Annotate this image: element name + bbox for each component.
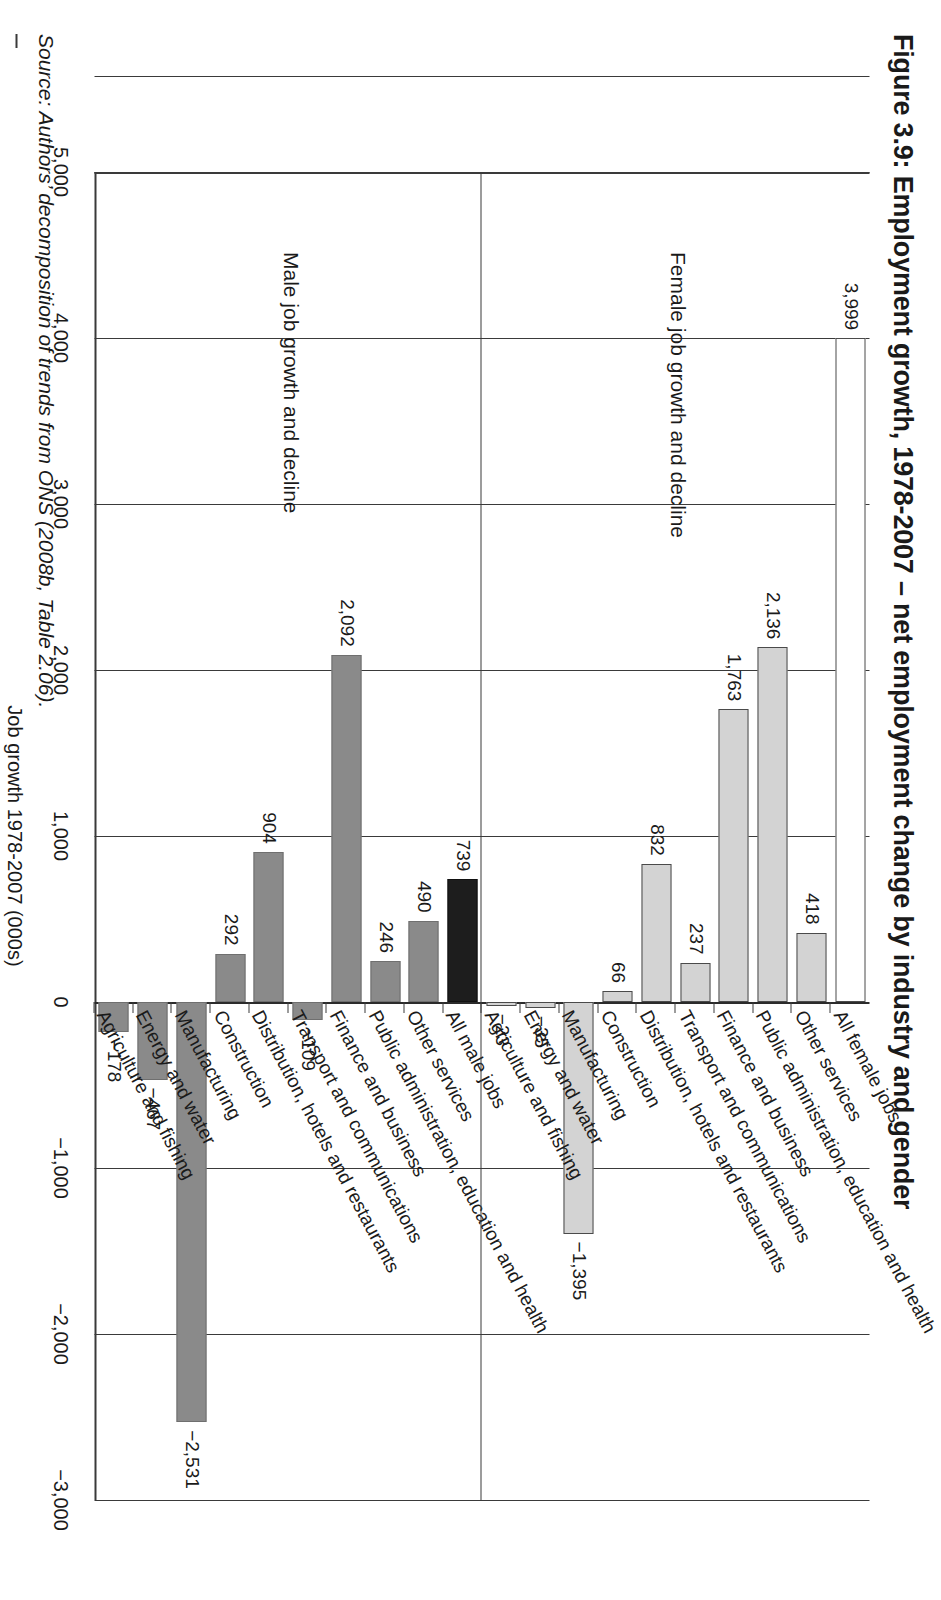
bar-value-label: 292 [219, 914, 241, 946]
bar-value-label: 418 [800, 893, 822, 925]
source-note: Source: Authors’ decomposition of trends… [33, 34, 57, 1534]
bar-male [370, 961, 400, 1002]
bar-male [215, 954, 245, 1002]
category-tick [829, 1002, 830, 1013]
category-tick [287, 1002, 288, 1013]
panel-caption-female: Female job growth and decline [665, 252, 689, 538]
category-tick [93, 1002, 94, 1013]
bar-value-label: 66 [606, 962, 628, 983]
category-tick [558, 1002, 559, 1013]
plot-outer-border [94, 76, 869, 77]
category-tick [636, 1002, 637, 1013]
bar-female [757, 647, 787, 1002]
bar-value-label: 2,092 [335, 599, 357, 647]
chart-plot-area: 5,0004,0003,0002,0001,0000−1,000−2,000−3… [94, 172, 869, 1500]
bar-value-label: 2,136 [761, 592, 783, 640]
bar-female [486, 1002, 516, 1006]
category-tick [209, 1002, 210, 1013]
bar-value-label: 237 [684, 923, 706, 955]
category-tick [132, 1002, 133, 1013]
bar-female [525, 1002, 555, 1008]
bar-value-label: −1,395 [567, 1242, 589, 1301]
bar-value-label: 1,763 [722, 654, 744, 702]
bar-female [835, 338, 865, 1002]
footer-rule [15, 34, 17, 48]
gridline [94, 1500, 869, 1501]
category-tick [248, 1002, 249, 1013]
bar-male [447, 879, 477, 1002]
panel-separator [481, 172, 482, 1500]
bar-female [680, 963, 710, 1002]
bar-value-label: 490 [412, 881, 434, 913]
bar-female [796, 933, 826, 1002]
bar-male [408, 921, 438, 1002]
category-tick [442, 1002, 443, 1013]
category-tick [326, 1002, 327, 1013]
category-tick [171, 1002, 172, 1013]
bar-male [253, 852, 283, 1002]
bar-female [602, 991, 632, 1002]
bar-value-label: −2,531 [180, 1430, 202, 1489]
value-axis-title: Job growth 1978-2007 (000s) [2, 172, 25, 1500]
category-tick [364, 1002, 365, 1013]
bar-value-label: 3,999 [839, 283, 861, 331]
bar-value-label: 739 [451, 840, 473, 872]
bar-value-label: 904 [257, 812, 279, 844]
category-tick [791, 1002, 792, 1013]
bar-value-label: 246 [374, 921, 396, 953]
category-tick [674, 1002, 675, 1013]
figure-page: Figure 3.9: Employment growth, 1978-2007… [0, 0, 941, 1600]
bar-male [331, 655, 361, 1002]
category-tick [519, 1002, 520, 1013]
bar-female [718, 709, 748, 1002]
bar-value-label: 832 [645, 824, 667, 856]
category-tick [713, 1002, 714, 1013]
bar-female [641, 864, 671, 1002]
panel-caption-male: Male job growth and decline [278, 252, 302, 514]
category-tick [752, 1002, 753, 1013]
category-tick [597, 1002, 598, 1013]
category-tick [403, 1002, 404, 1013]
